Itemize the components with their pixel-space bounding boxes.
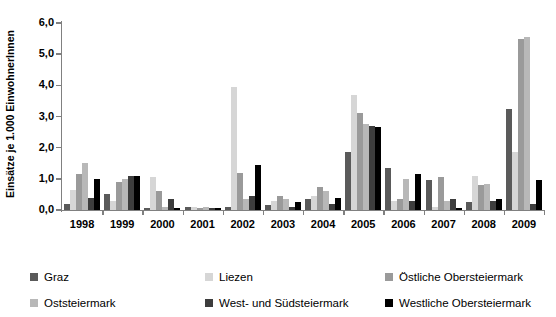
legend-item-label: Oststeiermark	[44, 297, 116, 309]
x-axis-tick-label: 2009	[504, 218, 544, 230]
bar-group	[303, 23, 343, 210]
x-axis-tick	[183, 210, 184, 215]
y-axis-tick-label: 5,0	[26, 48, 54, 59]
legend-swatch-icon	[30, 273, 38, 281]
legend-item[interactable]: West- und Südsteiermark	[205, 297, 385, 309]
bar	[536, 180, 542, 210]
legend-item-label: Westliche Obersteiermark	[399, 297, 531, 309]
bar-chart: Einsätze je 1.000 EinwohnerInnen 0,01,02…	[0, 0, 556, 317]
legend-item[interactable]: Graz	[30, 271, 205, 283]
x-axis-tick-label: 2000	[142, 218, 182, 230]
bar	[335, 198, 341, 210]
y-axis-tick-label: 0,0	[26, 204, 54, 215]
legend-swatch-icon	[205, 273, 213, 281]
bar-group	[464, 23, 504, 210]
x-axis-tick-label: 2006	[383, 218, 423, 230]
bar-group	[102, 23, 142, 210]
x-axis-tick-label: 1999	[102, 218, 142, 230]
bar-group	[263, 23, 303, 210]
bar-group	[223, 23, 263, 210]
bar	[174, 208, 180, 210]
legend-swatch-icon	[385, 299, 393, 307]
bar	[524, 37, 530, 210]
y-axis-tick-label: 1,0	[26, 173, 54, 184]
bar	[496, 199, 502, 210]
bar	[426, 180, 432, 210]
x-axis-tick	[102, 210, 103, 215]
x-axis-tick	[464, 210, 465, 215]
legend-item[interactable]: Östliche Obersteiermark	[385, 271, 556, 283]
bar	[456, 208, 462, 210]
legend-item-label: Graz	[44, 271, 69, 283]
legend-swatch-icon	[30, 299, 38, 307]
bar	[415, 174, 421, 210]
x-axis-tick-label: 2008	[464, 218, 504, 230]
x-axis-tick	[142, 210, 143, 215]
x-axis-tick-label: 2003	[263, 218, 303, 230]
legend-swatch-icon	[205, 299, 213, 307]
y-axis-tick-label: 2,0	[26, 142, 54, 153]
x-axis-tick	[263, 210, 264, 215]
y-axis-tick-label: 6,0	[26, 17, 54, 28]
x-axis-tick-label: 2001	[183, 218, 223, 230]
legend-item-label: Östliche Obersteiermark	[399, 271, 523, 283]
y-axis-tick-label: 3,0	[26, 111, 54, 122]
bar-group	[183, 23, 223, 210]
x-axis-tick	[223, 210, 224, 215]
x-axis-tick	[544, 210, 545, 215]
legend-swatch-icon	[385, 273, 393, 281]
bar	[94, 179, 100, 210]
bar	[295, 202, 301, 210]
x-axis-tick-label: 1998	[62, 218, 102, 230]
bar	[375, 127, 381, 210]
x-axis-tick-label: 2002	[223, 218, 263, 230]
legend-item[interactable]: Liezen	[205, 271, 385, 283]
bar-group	[424, 23, 464, 210]
y-axis-tick-label: 4,0	[26, 79, 54, 90]
bar	[215, 208, 221, 210]
bar	[134, 176, 140, 210]
x-axis-tick	[424, 210, 425, 215]
bar-group	[343, 23, 383, 210]
plot-area	[62, 23, 544, 210]
x-axis-tick	[343, 210, 344, 215]
x-axis-tick-label: 2005	[343, 218, 383, 230]
bar	[255, 165, 261, 210]
y-axis-title: Einsätze je 1.000 EinwohnerInnen	[2, 14, 18, 214]
bar-group	[62, 23, 102, 210]
x-axis-tick	[504, 210, 505, 215]
legend-item-label: Liezen	[219, 271, 253, 283]
x-axis-tick	[383, 210, 384, 215]
bar-group	[142, 23, 182, 210]
chart-legend: GrazLiezenÖstliche ObersteiermarkOststei…	[30, 264, 546, 316]
legend-item[interactable]: Oststeiermark	[30, 297, 205, 309]
x-axis-tick	[303, 210, 304, 215]
bar-group	[504, 23, 544, 210]
legend-item-label: West- und Südsteiermark	[219, 297, 349, 309]
x-axis-tick-label: 2007	[424, 218, 464, 230]
legend-item[interactable]: Westliche Obersteiermark	[385, 297, 556, 309]
bar-group	[383, 23, 423, 210]
x-axis-tick-label: 2004	[303, 218, 343, 230]
